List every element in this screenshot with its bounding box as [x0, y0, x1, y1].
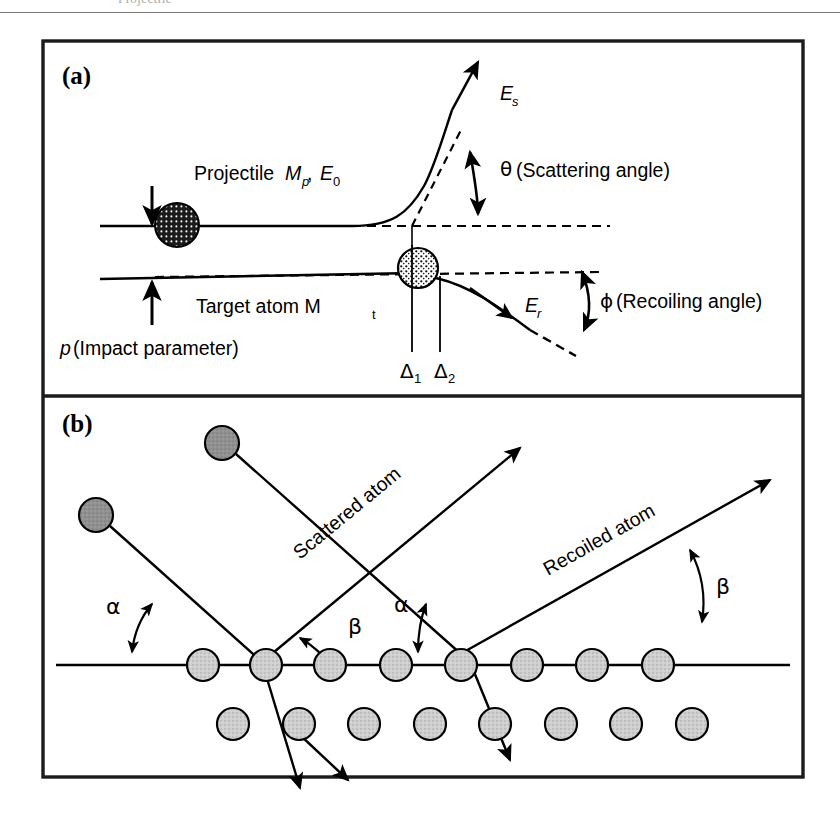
scattering-angle-symbol: θ: [500, 157, 512, 181]
target-atom-subscript: t: [372, 307, 376, 322]
recoil-asymptote-dashed: [530, 330, 576, 356]
projectile-comma: ,: [307, 162, 312, 184]
figure-root: Projectile: [0, 0, 840, 817]
lattice-atom: [283, 708, 315, 740]
lattice-atom: [250, 649, 282, 681]
lattice-atom: [576, 649, 608, 681]
lattice-atom: [217, 708, 249, 740]
alpha-right-symbol: α: [394, 592, 409, 617]
delta1-subscript: 1: [414, 371, 421, 386]
lattice-atom: [642, 649, 674, 681]
scattering-angle-arc: [470, 152, 478, 214]
beta-right-symbol: β: [716, 574, 730, 599]
recoil-trajectory: [436, 278, 530, 330]
top-rule-divider: [0, 12, 840, 13]
cropped-caption-ghost: Projectile: [0, 0, 840, 11]
recoiling-angle-label: (Recoiling angle): [616, 290, 762, 312]
panel-a-tag: (a): [62, 62, 91, 90]
panel-b-tag: (b): [62, 410, 93, 438]
scattered-trajectory-arrow: [452, 62, 478, 110]
figure-outer-frame: [43, 41, 803, 777]
target-atom: [398, 248, 438, 288]
lattice-atom: [610, 708, 642, 740]
recoil-energy-arrow: [470, 288, 512, 318]
target-atom-label: Target atom M: [196, 295, 321, 317]
lattice-atom: [414, 708, 446, 740]
lattice-atom: [314, 649, 346, 681]
scattered-energy-subscript: s: [512, 94, 519, 109]
scattering-diagram-svg: (a) θ (Scattering angle) E s Projectile …: [0, 0, 840, 817]
impact-parameter-symbol: p: [59, 337, 71, 359]
scattered-asymptote-dashed: [412, 128, 462, 226]
panel-a: (a) θ (Scattering angle) E s Projectile …: [59, 62, 762, 386]
scattered-atom-label: Scattered atom: [289, 462, 405, 563]
alpha-left-symbol: α: [106, 594, 121, 619]
beta-left-symbol: β: [348, 614, 362, 639]
impact-parameter-label: (Impact parameter): [73, 337, 239, 359]
panel-b: (b) α β Scattered atom α: [56, 410, 790, 788]
lattice-atom: [187, 649, 219, 681]
sub-surface-recoil-left: [300, 735, 348, 780]
alpha-left-arc: [132, 604, 152, 652]
lattice-atom: [445, 649, 477, 681]
lattice-atom: [676, 708, 708, 740]
beta-right-arc: [690, 550, 704, 622]
incoming-atom-upper: [205, 426, 239, 460]
projectile-mass-symbol: M: [285, 162, 302, 184]
recoiling-angle-symbol: ϕ: [600, 289, 613, 313]
projectile-energy-symbol: E: [320, 162, 334, 184]
projectile-energy-subscript: 0: [333, 174, 340, 189]
projectile-atom: [155, 203, 199, 247]
delta2-subscript: 2: [448, 371, 455, 386]
recoiled-atom-ray: [446, 480, 770, 662]
delta2-symbol: Δ: [434, 359, 448, 383]
recoiled-atom-label: Recoiled atom: [539, 499, 658, 580]
projectile-label: Projectile: [194, 162, 274, 184]
recoil-energy-subscript: r: [537, 306, 542, 321]
recoiling-angle-arc: [582, 272, 589, 330]
alpha-right-arc: [418, 604, 426, 652]
lattice-atom: [545, 708, 577, 740]
delta1-symbol: Δ: [400, 359, 414, 383]
lattice-atom: [511, 649, 543, 681]
lattice-second-row: [217, 708, 708, 740]
lattice-atom: [479, 708, 511, 740]
incoming-atom-left: [79, 498, 113, 532]
scattering-angle-label: (Scattering angle): [516, 159, 670, 181]
lattice-atom: [380, 649, 412, 681]
projectile-trajectory: [352, 110, 452, 226]
lattice-atom: [348, 708, 380, 740]
